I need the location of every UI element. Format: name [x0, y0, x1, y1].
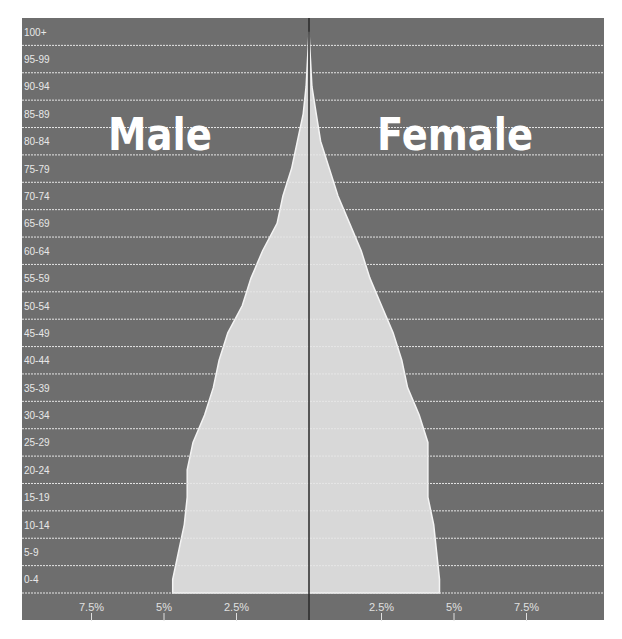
- age-label: 25-29: [24, 437, 50, 448]
- age-label: 95-99: [24, 54, 50, 65]
- age-label: 45-49: [24, 328, 50, 339]
- age-label: 35-39: [24, 383, 50, 394]
- age-label: 75-79: [24, 164, 50, 175]
- x-tick-label: 5%: [446, 601, 462, 613]
- age-label: 20-24: [24, 465, 50, 476]
- age-label: 50-54: [24, 301, 50, 312]
- age-label: 10-14: [24, 520, 50, 531]
- age-label: 65-69: [24, 218, 50, 229]
- x-tick-label: 2.5%: [224, 601, 249, 613]
- age-labels: 0-45-910-1415-1920-2425-2930-3435-3940-4…: [24, 27, 50, 586]
- x-tick-label: 7.5%: [514, 601, 539, 613]
- population-pyramid-chart: 0-45-910-1415-1920-2425-2930-3435-3940-4…: [0, 0, 622, 639]
- age-label: 15-19: [24, 492, 50, 503]
- age-label: 0-4: [24, 574, 39, 585]
- x-tick-label: 7.5%: [79, 601, 104, 613]
- age-label: 40-44: [24, 355, 50, 366]
- age-label: 70-74: [24, 191, 50, 202]
- age-label: 55-59: [24, 273, 50, 284]
- x-tick-label: 5%: [156, 601, 172, 613]
- x-tick-label: 2.5%: [369, 601, 394, 613]
- age-label: 60-64: [24, 246, 50, 257]
- age-label: 5-9: [24, 547, 39, 558]
- male-label: Male: [108, 109, 212, 160]
- age-label: 85-89: [24, 109, 50, 120]
- age-label: 30-34: [24, 410, 50, 421]
- female-label: Female: [377, 109, 533, 160]
- age-label: 100+: [24, 27, 47, 38]
- age-label: 80-84: [24, 136, 50, 147]
- age-label: 90-94: [24, 81, 50, 92]
